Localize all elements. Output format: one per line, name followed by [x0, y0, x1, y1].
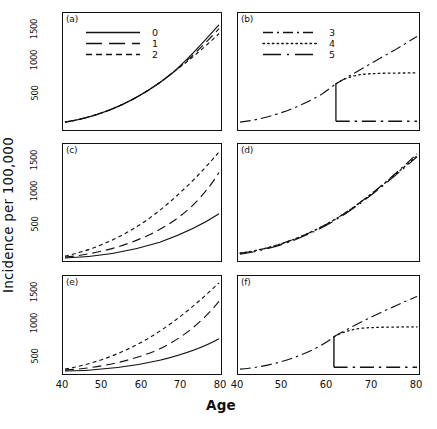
legend-label-1: 1 [152, 38, 158, 49]
x-tick-70-left: 70 [167, 379, 193, 390]
curve-3-panel-b [336, 37, 417, 84]
curve-0-panel-e [65, 339, 219, 371]
panel-a-tag: (a) [66, 14, 78, 24]
y-tick-1500-row1: 1500 [24, 24, 44, 34]
legend-left: 0 1 2 [85, 27, 158, 60]
curve-0-panel-c [65, 214, 219, 258]
legend-label-5: 5 [329, 49, 335, 60]
y-tick-500-row2: 500 [27, 219, 42, 229]
x-tick-60-right: 60 [313, 379, 339, 390]
x-tick-40-right: 40 [224, 379, 250, 390]
y-tick-1000-row3: 1000 [24, 318, 44, 328]
legend-entry-3: 3 [262, 27, 335, 38]
panel-d: (d) [237, 143, 420, 262]
figure-panel-grid: Incidence per 100,000 1500 1000 500 1500… [0, 0, 437, 429]
legend-swatch-longdashdot [262, 49, 318, 60]
panel-a: (a) 0 1 2 [62, 12, 222, 131]
legend-swatch-longdash [85, 38, 141, 49]
curve-3-panel-d [240, 154, 417, 253]
panel-b: (b) 3 4 5 [237, 12, 420, 131]
panel-c-tag: (c) [66, 145, 77, 155]
panel-c-plot [63, 144, 221, 261]
panel-e-tag: (e) [66, 277, 78, 287]
x-tick-60-left: 60 [128, 379, 154, 390]
legend-label-4: 4 [329, 38, 335, 49]
y-tick-500-row1: 500 [27, 88, 42, 98]
y-tick-1000-row2: 1000 [24, 186, 44, 196]
x-tick-80-right: 80 [403, 379, 429, 390]
panel-f-tag: (f) [241, 277, 251, 287]
curve-4-panel-d [240, 156, 417, 253]
x-axis-label: Age [191, 397, 251, 413]
panel-c: (c) [62, 143, 222, 262]
panel-e: (e) [62, 275, 222, 375]
x-tick-50-left: 50 [88, 379, 114, 390]
curve-2-panel-c [65, 152, 219, 256]
x-tick-40-left: 40 [49, 379, 75, 390]
legend-entry-4: 4 [262, 38, 335, 49]
curve-1-panel-e [65, 301, 219, 370]
legend-swatch-dotted [262, 38, 318, 49]
y-tick-1500-row2: 1500 [24, 155, 44, 165]
legend-entry-1: 1 [85, 38, 158, 49]
y-tick-500-row3: 500 [27, 351, 42, 361]
panel-f: (f) [237, 275, 420, 375]
legend-label-3: 3 [329, 27, 335, 38]
legend-swatch-shortdash [85, 49, 141, 60]
panel-d-plot [238, 144, 419, 261]
legend-label-0: 0 [152, 27, 158, 38]
curve-shared-panel-f [240, 337, 334, 369]
curve-5-panel-d [240, 157, 417, 254]
legend-label-2: 2 [152, 49, 158, 60]
panel-e-plot [63, 276, 221, 374]
y-axis-label: Incidence per 100,000 [0, 0, 18, 429]
legend-entry-0: 0 [85, 27, 158, 38]
curve-4-panel-f [334, 327, 417, 337]
y-axis-label-text: Incidence per 100,000 [0, 137, 16, 293]
curve-1-panel-c [65, 173, 219, 258]
panel-d-tag: (d) [241, 145, 253, 155]
curve-shared-panel-b [240, 84, 336, 122]
legend-swatch-solid [85, 27, 141, 38]
legend-right: 3 4 5 [262, 27, 335, 60]
curve-4-panel-b [336, 73, 417, 84]
legend-swatch-dashdot [262, 27, 318, 38]
curve-3-panel-f [334, 297, 417, 337]
panel-b-tag: (b) [241, 14, 253, 24]
curve-2-panel-e [65, 283, 219, 369]
y-tick-1500-row3: 1500 [24, 287, 44, 297]
legend-entry-2: 2 [85, 49, 158, 60]
y-tick-1000-row1: 1000 [24, 55, 44, 65]
x-tick-50-right: 50 [268, 379, 294, 390]
x-tick-70-right: 70 [358, 379, 384, 390]
panel-f-plot [238, 276, 419, 374]
legend-entry-5: 5 [262, 49, 335, 60]
